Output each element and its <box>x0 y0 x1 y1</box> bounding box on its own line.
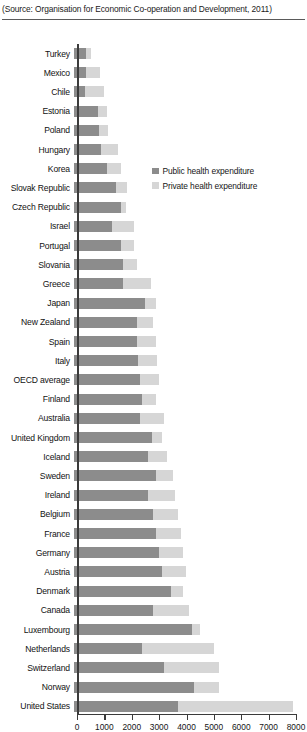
country-label: Hungary <box>0 145 74 155</box>
bar-segment-public <box>74 547 159 558</box>
chart-row: New Zealand <box>0 313 307 332</box>
stacked-bar <box>74 221 307 232</box>
legend-swatch-public-icon <box>152 168 159 175</box>
x-axis-tick-label: 7000 <box>259 722 278 732</box>
y-axis-line <box>77 44 79 714</box>
x-axis-tick-label: 0 <box>75 722 80 732</box>
bar-segment-public <box>74 662 164 673</box>
bar-segment-private <box>86 67 100 78</box>
bar-segment-public <box>74 240 121 251</box>
legend-item-private: Private health expenditure <box>152 181 257 191</box>
x-axis-tick-label: 2000 <box>122 722 141 732</box>
chart-row: Italy <box>0 351 307 370</box>
country-label: Czech Republic <box>0 202 74 212</box>
country-label: Finland <box>0 394 74 404</box>
country-label: Germany <box>0 548 74 558</box>
x-axis-tick <box>241 715 242 720</box>
chart-row: Iceland <box>0 447 307 466</box>
country-label: Chile <box>0 87 74 97</box>
stacked-bar <box>74 355 307 366</box>
bar-segment-private <box>138 355 157 366</box>
country-label: Mexico <box>0 68 74 78</box>
stacked-bar <box>74 566 307 577</box>
source-caption: (Source: Organisation for Economic Co-op… <box>0 0 307 18</box>
stacked-bar <box>74 67 307 78</box>
bar-segment-private <box>137 317 153 328</box>
bar-segment-private <box>153 509 178 520</box>
stacked-bar <box>74 413 307 424</box>
chart-row: Hungary <box>0 140 307 159</box>
bar-segment-public <box>74 355 138 366</box>
bar-segment-private <box>137 336 156 347</box>
country-label: United States <box>0 701 74 711</box>
bar-segment-public <box>74 259 123 270</box>
bar-segment-public <box>74 586 171 597</box>
country-label: Greece <box>0 279 74 289</box>
country-label: Iceland <box>0 452 74 462</box>
country-label: Korea <box>0 164 74 174</box>
country-label: Poland <box>0 125 74 135</box>
bar-segment-public <box>74 48 86 59</box>
bar-segment-private <box>98 106 107 117</box>
stacked-bar <box>74 106 307 117</box>
bar-segment-public <box>74 221 112 232</box>
stacked-bar <box>74 509 307 520</box>
bar-segment-public <box>74 163 107 174</box>
chart-row: Belgium <box>0 505 307 524</box>
country-label: Japan <box>0 298 74 308</box>
bar-segment-private <box>121 202 126 213</box>
country-label: United Kingdom <box>0 433 74 443</box>
stacked-bar <box>74 432 307 443</box>
country-label: Turkey <box>0 49 74 59</box>
bar-segment-public <box>74 643 142 654</box>
x-axis-tick <box>269 715 270 720</box>
stacked-bar <box>74 298 307 309</box>
bar-segment-private <box>164 662 219 673</box>
legend-swatch-private-icon <box>152 182 159 189</box>
chart-row: Poland <box>0 121 307 140</box>
bar-segment-private <box>101 144 117 155</box>
bar-segment-private <box>148 451 167 462</box>
bar-segment-private <box>178 701 293 712</box>
bar-segment-private <box>85 86 104 97</box>
bar-segment-private <box>123 259 137 270</box>
country-label: Belgium <box>0 509 74 519</box>
chart-row: Austria <box>0 562 307 581</box>
country-label: Netherlands <box>0 644 74 654</box>
stacked-bar <box>74 643 307 654</box>
x-axis-tick-label: 4000 <box>177 722 196 732</box>
bar-segment-public <box>74 336 137 347</box>
country-label: Norway <box>0 682 74 692</box>
bar-segment-public <box>74 509 153 520</box>
stacked-bar <box>74 48 307 59</box>
bar-segment-private <box>145 298 156 309</box>
bar-segment-private <box>142 394 156 405</box>
country-label: Austria <box>0 567 74 577</box>
stacked-bar <box>74 240 307 251</box>
stacked-bar <box>74 528 307 539</box>
country-label: Australia <box>0 413 74 423</box>
chart-row: France <box>0 524 307 543</box>
bar-segment-public <box>74 682 194 693</box>
bar-segment-public <box>74 86 85 97</box>
bar-segment-private <box>112 221 134 232</box>
bar-segment-public <box>74 374 140 385</box>
bar-segment-public <box>74 701 178 712</box>
country-label: New Zealand <box>0 317 74 327</box>
country-label: Estonia <box>0 106 74 116</box>
country-label: Spain <box>0 337 74 347</box>
bar-segment-public <box>74 470 156 481</box>
stacked-bar <box>74 586 307 597</box>
bar-segment-private <box>107 163 121 174</box>
x-axis-tick <box>214 715 215 720</box>
country-label: Denmark <box>0 586 74 596</box>
bar-segment-public <box>74 605 153 616</box>
stacked-bar <box>74 259 307 270</box>
bar-segment-public <box>74 566 162 577</box>
chart-row: Switzerland <box>0 658 307 677</box>
chart-row: Portugal <box>0 236 307 255</box>
country-label: Luxembourg <box>0 625 74 635</box>
stacked-bar <box>74 490 307 501</box>
stacked-bar <box>74 144 307 155</box>
bar-segment-public <box>74 317 137 328</box>
